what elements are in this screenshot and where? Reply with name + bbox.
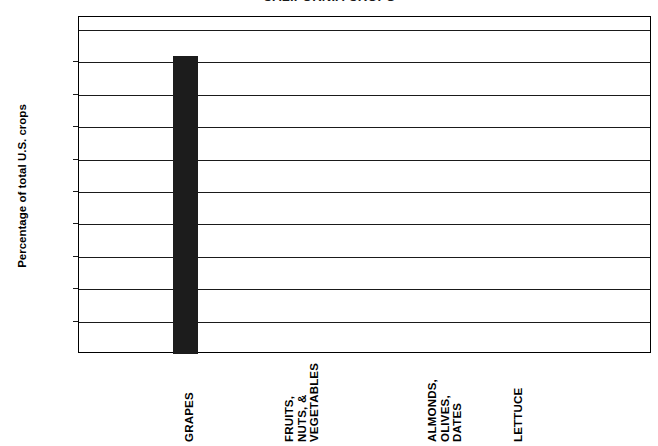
- gridline-100: [79, 30, 650, 31]
- bar-grapes: [173, 56, 198, 354]
- gridline-20: [79, 289, 650, 290]
- x-category-line: NUTS, &: [296, 363, 309, 442]
- y-tick-mark-50: [73, 191, 78, 192]
- gridline-30: [79, 257, 650, 258]
- y-tick-mark-80: [73, 94, 78, 95]
- y-axis-title: Percentage of total U.S. crops: [16, 71, 28, 301]
- gridline-60: [79, 160, 650, 161]
- gridline-90: [79, 62, 650, 63]
- plot-area: [78, 16, 651, 353]
- x-category-line: GRAPES: [183, 392, 196, 442]
- x-category-line: DATES: [451, 379, 464, 442]
- x-category-line: VEGETABLES: [308, 363, 321, 442]
- gridline-10: [79, 322, 650, 323]
- gridline-70: [79, 127, 650, 128]
- y-tick-mark-20: [73, 288, 78, 289]
- gridline-50: [79, 192, 650, 193]
- gridline-40: [79, 224, 650, 225]
- y-tick-mark-90: [73, 61, 78, 62]
- y-tick-mark-30: [73, 256, 78, 257]
- chart-title: CALIFORNIA CROPS: [0, 0, 658, 4]
- y-tick-mark-60: [73, 159, 78, 160]
- y-tick-mark-70: [73, 126, 78, 127]
- x-category-line: ALMONDS,: [426, 379, 439, 442]
- x-category-line: LETTUCE: [512, 388, 525, 442]
- y-tick-mark-40: [73, 223, 78, 224]
- x-category-line: OLIVES,: [439, 379, 452, 442]
- y-tick-mark-10: [73, 321, 78, 322]
- gridline-80: [79, 95, 650, 96]
- x-category-line: FRUITS,: [283, 363, 296, 442]
